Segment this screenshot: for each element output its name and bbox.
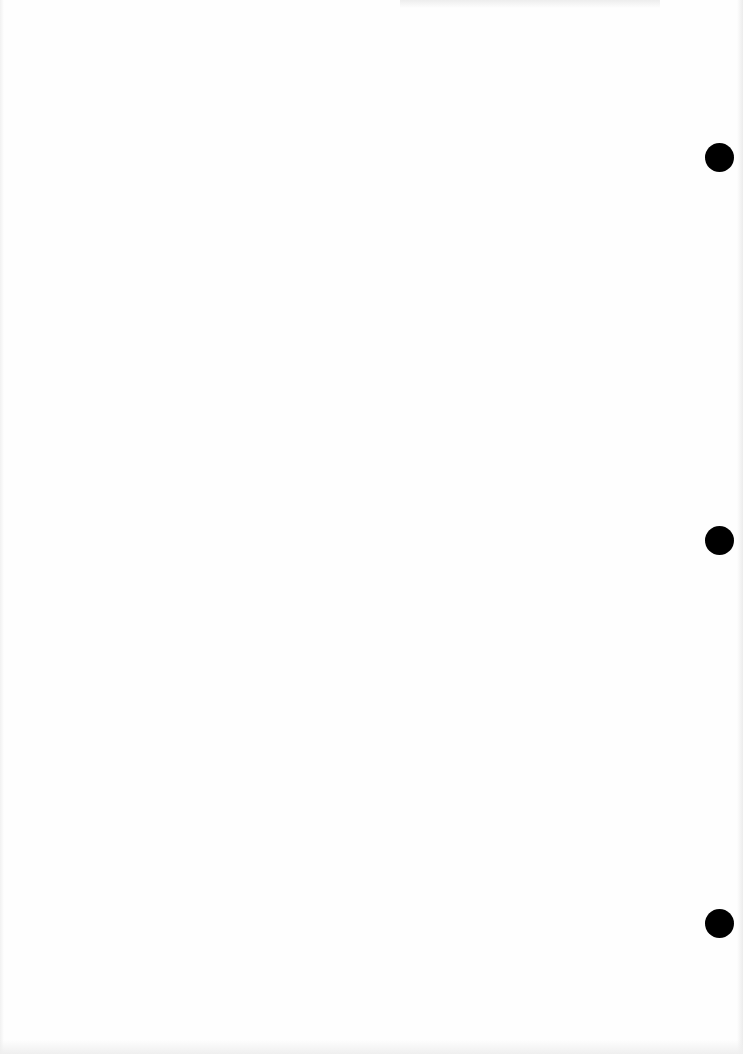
punch-hole-1 xyxy=(705,143,734,172)
show-through-top xyxy=(400,0,660,8)
show-through-bottom xyxy=(0,1040,743,1054)
scanned-page xyxy=(0,0,743,1054)
page-edge-left xyxy=(0,0,4,1054)
punch-hole-3 xyxy=(705,909,734,938)
page-edge-right xyxy=(737,0,743,1054)
punch-hole-2 xyxy=(705,526,734,555)
